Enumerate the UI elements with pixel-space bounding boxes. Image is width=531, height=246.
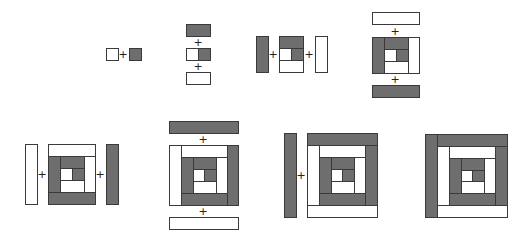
dark-fabric-strip [496, 147, 508, 206]
light-fabric-strip [462, 171, 473, 182]
construction-step-5: ++ [26, 145, 119, 205]
dark-fabric-strip [49, 157, 61, 193]
light-fabric-strip [308, 146, 320, 206]
light-fabric-strip [462, 182, 485, 194]
plus-sign: + [37, 168, 46, 181]
light-fabric-strip [332, 170, 343, 182]
dark-fabric-strip [397, 50, 409, 62]
plus-sign: + [198, 133, 207, 146]
light-fabric-strip [316, 37, 328, 73]
light-fabric-strip [280, 49, 292, 61]
dark-fabric-strip [450, 194, 496, 206]
light-fabric-strip [320, 146, 366, 158]
plus-sign: + [304, 48, 313, 61]
light-fabric-strip [332, 182, 355, 194]
light-fabric-strip [194, 170, 205, 182]
dark-fabric-strip [107, 145, 119, 205]
light-fabric-strip [485, 159, 496, 194]
construction-step-8 [426, 135, 508, 218]
construction-step-7: + [285, 134, 378, 218]
dark-fabric-strip [61, 157, 85, 169]
dark-fabric-strip [473, 171, 485, 182]
plus-sign: + [118, 48, 127, 61]
dark-fabric-strip [320, 158, 332, 194]
plus-sign: + [193, 36, 202, 49]
dark-fabric-strip [285, 134, 297, 218]
light-fabric-strip [170, 146, 182, 206]
light-fabric-strip [194, 182, 217, 194]
construction-step-1: + [107, 48, 142, 61]
diagram-canvas: ++++++++++++ [0, 0, 531, 246]
light-fabric-strip [438, 147, 450, 206]
light-fabric-strip [280, 61, 304, 73]
dark-fabric-strip [308, 134, 378, 146]
dark-fabric-strip [373, 86, 420, 98]
plus-sign: + [95, 168, 104, 181]
light-fabric-strip [217, 158, 228, 194]
light-fabric-strip [409, 38, 420, 74]
light-fabric-strip [182, 146, 228, 158]
plus-sign: + [193, 60, 202, 73]
plus-sign: + [390, 73, 399, 86]
dark-fabric-strip [366, 146, 378, 206]
construction-step-4: ++ [373, 13, 420, 98]
light-fabric-strip [61, 181, 85, 193]
light-fabric-strip [187, 73, 211, 85]
dark-fabric-strip [130, 49, 142, 61]
light-fabric-strip [385, 50, 397, 62]
dark-fabric-strip [228, 146, 239, 206]
dark-fabric-strip [385, 38, 409, 50]
dark-fabric-strip [73, 169, 85, 181]
light-fabric-strip [308, 206, 378, 218]
construction-step-3: ++ [257, 37, 328, 73]
dark-fabric-strip [450, 159, 462, 194]
light-fabric-strip [85, 157, 96, 193]
dark-fabric-strip [320, 194, 366, 206]
dark-fabric-strip [373, 38, 385, 74]
light-fabric-strip [26, 145, 38, 205]
dark-fabric-strip [49, 193, 96, 205]
light-fabric-strip [438, 206, 508, 218]
dark-fabric-strip [194, 158, 217, 170]
light-fabric-strip [450, 147, 496, 159]
dark-fabric-strip [343, 170, 355, 182]
dark-fabric-strip [182, 158, 194, 194]
construction-step-6: ++ [170, 122, 239, 230]
plus-sign: + [268, 48, 277, 61]
dark-fabric-strip [257, 37, 269, 73]
light-fabric-strip [49, 145, 96, 157]
log-cabin-diagram: ++++++++++++ [0, 0, 531, 246]
light-fabric-strip [107, 49, 119, 61]
dark-fabric-strip [280, 37, 304, 49]
dark-fabric-strip [205, 170, 217, 182]
dark-fabric-strip [426, 135, 438, 218]
dark-fabric-strip [462, 159, 485, 171]
dark-fabric-strip [438, 135, 508, 147]
light-fabric-strip [170, 218, 239, 230]
dark-fabric-strip [332, 158, 355, 170]
light-fabric-strip [61, 169, 73, 181]
plus-sign: + [390, 25, 399, 38]
light-fabric-strip [373, 13, 420, 25]
light-fabric-strip [355, 158, 366, 194]
plus-sign: + [296, 169, 305, 182]
dark-fabric-strip [292, 49, 304, 61]
construction-step-2: ++ [187, 25, 211, 85]
plus-sign: + [198, 205, 207, 218]
